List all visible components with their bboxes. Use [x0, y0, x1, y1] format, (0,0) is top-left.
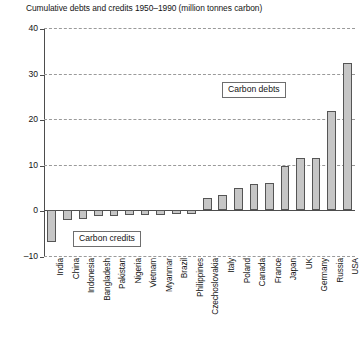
- x-label-india: India: [55, 258, 65, 276]
- x-label-russia: Russia: [335, 258, 345, 283]
- gridline--10: [44, 256, 355, 257]
- x-label-pakistan: Pakistan: [117, 258, 127, 289]
- bar-canada: [250, 184, 259, 210]
- x-label-nigeria: Nigeria: [133, 258, 143, 284]
- y-tick-label--10: –10: [24, 251, 38, 261]
- y-tick-30: [40, 75, 44, 76]
- gridline-0: [44, 210, 355, 211]
- gridline-20: [44, 119, 355, 120]
- x-axis-tick-labels: IndiaChinaIndonesiaBangladeshPakistanNig…: [44, 258, 355, 344]
- bar-indonesia: [79, 210, 88, 218]
- x-label-france: France: [273, 258, 283, 283]
- x-label-germany: Germany: [319, 258, 329, 291]
- bar-france: [265, 183, 274, 210]
- y-tick-20: [40, 120, 44, 121]
- x-label-canada: Canada: [257, 258, 267, 286]
- carbon-debts-annotation: Carbon debts: [222, 82, 286, 98]
- x-label-uk: UK: [304, 258, 314, 269]
- x-label-myanmar: Myanmar: [164, 258, 174, 292]
- plot-area: [44, 28, 355, 256]
- bar-italy: [218, 195, 227, 210]
- x-label-philippines: Philippines: [195, 258, 205, 297]
- x-label-poland: Poland: [242, 258, 252, 283]
- x-label-czechoslovakia: Czechoslovakia: [210, 258, 220, 315]
- x-label-japan: Japan: [288, 258, 298, 280]
- bar-uk: [296, 158, 305, 210]
- bar-india: [47, 210, 56, 242]
- x-label-brazil: Brazil: [179, 258, 189, 278]
- gridline-40: [44, 28, 355, 29]
- y-tick-40: [40, 29, 44, 30]
- bar-nigeria: [125, 210, 134, 215]
- y-axis-tick-labels: –10010203040: [12, 28, 38, 256]
- gridline-30: [44, 74, 355, 75]
- x-label-vietnam: Vietnam: [148, 258, 158, 288]
- x-label-china: China: [71, 258, 81, 279]
- x-label-indonesia: Indonesia: [86, 258, 96, 293]
- y-tick-10: [40, 166, 44, 167]
- bar-czechoslovakia: [203, 198, 212, 211]
- y-tick-label-30: 30: [28, 69, 38, 79]
- x-label-italy: Italy: [226, 258, 236, 273]
- y-tick-label-20: 20: [28, 114, 38, 124]
- y-tick-0: [40, 211, 44, 212]
- bar-germany: [312, 158, 321, 210]
- carbon-credits-annotation: Carbon credits: [73, 231, 141, 247]
- bar-usa: [343, 63, 352, 210]
- gridline-10: [44, 165, 355, 166]
- bar-bangladesh: [94, 210, 103, 216]
- bar-poland: [234, 188, 243, 211]
- chart-title: Cumulative debts and credits 1950–1990 (…: [26, 3, 262, 13]
- bar-japan: [281, 166, 290, 211]
- bar-vietnam: [141, 210, 150, 215]
- bar-brazil: [172, 210, 181, 214]
- bar-philippines: [187, 210, 196, 213]
- y-tick-label-10: 10: [28, 160, 38, 170]
- chart-figure: Cumulative debts and credits 1950–1990 (…: [0, 0, 364, 345]
- y-tick-label-40: 40: [28, 23, 38, 33]
- x-label-bangladesh: Bangladesh: [102, 258, 112, 301]
- bar-china: [63, 210, 72, 220]
- y-tick-label-0: 0: [33, 205, 38, 215]
- x-label-usa: USA: [350, 258, 360, 275]
- bar-russia: [327, 111, 336, 210]
- bar-myanmar: [156, 210, 165, 215]
- bar-pakistan: [110, 210, 119, 215]
